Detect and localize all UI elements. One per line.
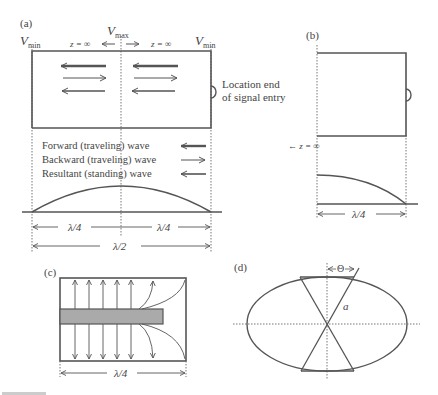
panel-c-label: (c) — [44, 266, 57, 279]
z-infinity-label: ← z = ∞ — [288, 141, 320, 151]
panel-b-label: (b) — [306, 29, 319, 42]
dim-left-label: λ/4 — [67, 221, 82, 233]
vmax-label: Vmax — [107, 23, 129, 40]
panel-d-label: (d) — [234, 261, 247, 274]
legend-forward-label: Forward (traveling) wave — [42, 140, 150, 152]
theta-label: Θ — [337, 263, 344, 274]
panel-a: (a) Vmin Vmax Vmin z = ∞ z = ∞ Location … — [20, 17, 286, 252]
panel-c: (c) λ/4 — [44, 266, 186, 379]
z-infinity-left: z = ∞ — [69, 39, 91, 49]
quarter-wave-box — [317, 53, 406, 136]
legend-backward-label: Backward (traveling) wave — [42, 154, 157, 166]
panel-b: (b) ← z = ∞ λ/4 — [288, 29, 418, 220]
dim-total-label: λ/2 — [112, 240, 127, 252]
dim-label: λ/4 — [351, 208, 366, 220]
vmin-left-label: Vmin — [20, 33, 40, 50]
field-lines-up — [75, 280, 185, 309]
entry-label-line1: Location end — [222, 78, 280, 90]
legend-resultant-label: Resultant (standing) wave — [42, 168, 152, 180]
panel-d: (d) Θ a — [233, 261, 420, 380]
radius-line — [301, 268, 359, 371]
legend: Forward (traveling) wave Backward (trave… — [42, 140, 206, 180]
z-infinity-right: z = ∞ — [150, 39, 172, 49]
vmin-right-label: Vmin — [195, 33, 215, 50]
dim-right-label: λ/4 — [156, 221, 171, 233]
dim-label: λ/4 — [113, 367, 128, 379]
inner-conductor — [60, 309, 163, 324]
radius-label: a — [343, 300, 349, 312]
panel-a-label: (a) — [20, 17, 33, 30]
entry-label-line2: of signal entry — [222, 91, 286, 103]
quarter-wave-curve — [317, 175, 406, 204]
figure-canvas: (a) Vmin Vmax Vmin z = ∞ z = ∞ Location … — [0, 0, 438, 395]
field-lines-down — [75, 324, 185, 359]
cavity-box — [32, 51, 211, 128]
